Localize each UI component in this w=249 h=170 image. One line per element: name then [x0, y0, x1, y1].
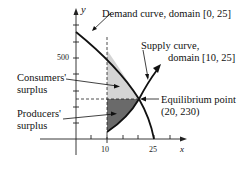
producers-surplus-label-line1: Producers'	[17, 108, 61, 119]
equilibrium-label-line2: (20, 230)	[161, 106, 200, 117]
y-tick-500: 500	[57, 54, 69, 62]
supply-leader-arrow-icon	[145, 74, 149, 80]
y-axis-arrow-icon	[74, 8, 79, 15]
y-axis-label: y	[81, 4, 86, 15]
x-tick-25: 25	[149, 146, 157, 154]
supply-arrow-icon	[153, 64, 161, 73]
x-axis-arrow-icon	[180, 137, 187, 142]
demand-curve-label: Demand curve, domain [0, 25]	[102, 8, 231, 19]
supply-curve-label-line2: domain [10, 25]	[168, 52, 235, 63]
supply-curve-label-line1: Supply curve,	[141, 40, 199, 51]
x-axis-label: x	[180, 144, 184, 155]
consumers-surplus-label-line2: surplus	[17, 84, 47, 95]
producers-surplus-label-line2: surplus	[17, 120, 47, 131]
consumers-surplus-label-line1: Consumers'	[17, 72, 66, 83]
x-tick-10: 10	[101, 146, 109, 154]
equilibrium-label-line1: Equilibrium point	[161, 94, 236, 105]
